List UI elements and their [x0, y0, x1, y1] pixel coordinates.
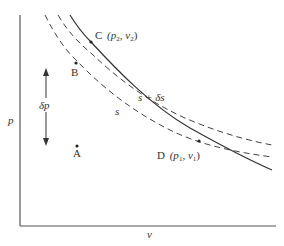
- isentrope-s-curve: [45, 15, 272, 157]
- isentrope-s-plus-curve: [58, 15, 272, 145]
- point-b: [74, 61, 77, 64]
- point-d: [197, 139, 200, 142]
- y-axis-label: p: [7, 114, 14, 126]
- point-d-label: D (p1, v1): [157, 149, 200, 163]
- isentrope-s-label: s: [115, 105, 119, 117]
- delta-p-label: δp: [39, 99, 50, 111]
- point-c: [89, 40, 92, 43]
- pv-diagram: δp p v B A C (p2, v2) D (p1, v1) s + δs …: [0, 0, 284, 246]
- point-b-label: B: [71, 66, 78, 78]
- point-a-label: A: [73, 147, 81, 159]
- x-axis-label: v: [147, 228, 152, 240]
- arrow-down-head: [43, 138, 49, 146]
- point-c-label: C (p2, v2): [95, 29, 138, 43]
- arrow-up-head: [43, 68, 49, 76]
- isentrope-s-plus-label: s + δs: [138, 91, 165, 103]
